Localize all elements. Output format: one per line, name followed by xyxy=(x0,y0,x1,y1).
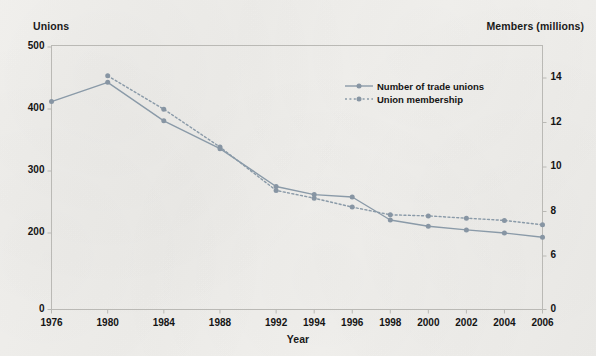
legend-item-union-membership: Union membership xyxy=(377,94,463,105)
axis-tick-label: 12 xyxy=(551,116,562,127)
data-point xyxy=(426,213,431,218)
data-point xyxy=(388,218,393,223)
axis-tick-label: 1984 xyxy=(142,317,186,328)
data-point xyxy=(540,222,545,227)
data-point xyxy=(105,80,110,85)
data-point xyxy=(274,184,279,189)
axis-tick-label: 6 xyxy=(551,249,557,260)
series-line xyxy=(108,76,543,225)
data-point xyxy=(388,212,393,217)
data-point xyxy=(312,192,317,197)
axis-tick-label: 2006 xyxy=(521,317,565,328)
series-union-membership xyxy=(105,73,545,227)
axis-tick-label: 0 xyxy=(5,303,45,314)
data-point xyxy=(464,227,469,232)
data-point xyxy=(105,73,110,78)
axis-tick-label: 200 xyxy=(5,226,45,237)
data-point xyxy=(350,205,355,210)
axis-tick-label: 300 xyxy=(5,164,45,175)
axis-tick-label: 8 xyxy=(551,205,557,216)
data-point xyxy=(161,107,166,112)
data-point xyxy=(502,231,507,236)
data-point xyxy=(502,218,507,223)
legend-sample-marker xyxy=(357,84,362,89)
union-trends-chart: Unions Members (millions) Year 020030040… xyxy=(0,0,596,356)
left-axis-ticks xyxy=(48,47,52,310)
data-point xyxy=(464,216,469,221)
data-point xyxy=(426,224,431,229)
data-point xyxy=(350,195,355,200)
legend-item-number-of-trade-unions: Number of trade unions xyxy=(377,81,484,92)
x-axis-ticks xyxy=(52,310,543,314)
axis-tick-label: 1980 xyxy=(86,317,130,328)
axis-tick-label: 14 xyxy=(551,71,562,82)
data-point xyxy=(218,146,223,151)
series-line xyxy=(52,82,543,237)
legend-marks xyxy=(345,84,373,102)
right-axis-ticks xyxy=(543,78,547,310)
axis-tick-label: 500 xyxy=(5,40,45,51)
legend-sample-marker xyxy=(357,97,362,102)
axis-tick-label: 0 xyxy=(551,303,557,314)
data-point xyxy=(540,235,545,240)
axis-tick-label: 400 xyxy=(5,102,45,113)
data-point xyxy=(49,99,54,104)
axis-tick-label: 1988 xyxy=(198,317,242,328)
axis-tick-label: 10 xyxy=(551,160,562,171)
plot-area xyxy=(0,0,596,356)
axis-tick-label: 1976 xyxy=(30,317,74,328)
series-number-of-trade-unions xyxy=(49,80,545,240)
data-point xyxy=(161,118,166,123)
